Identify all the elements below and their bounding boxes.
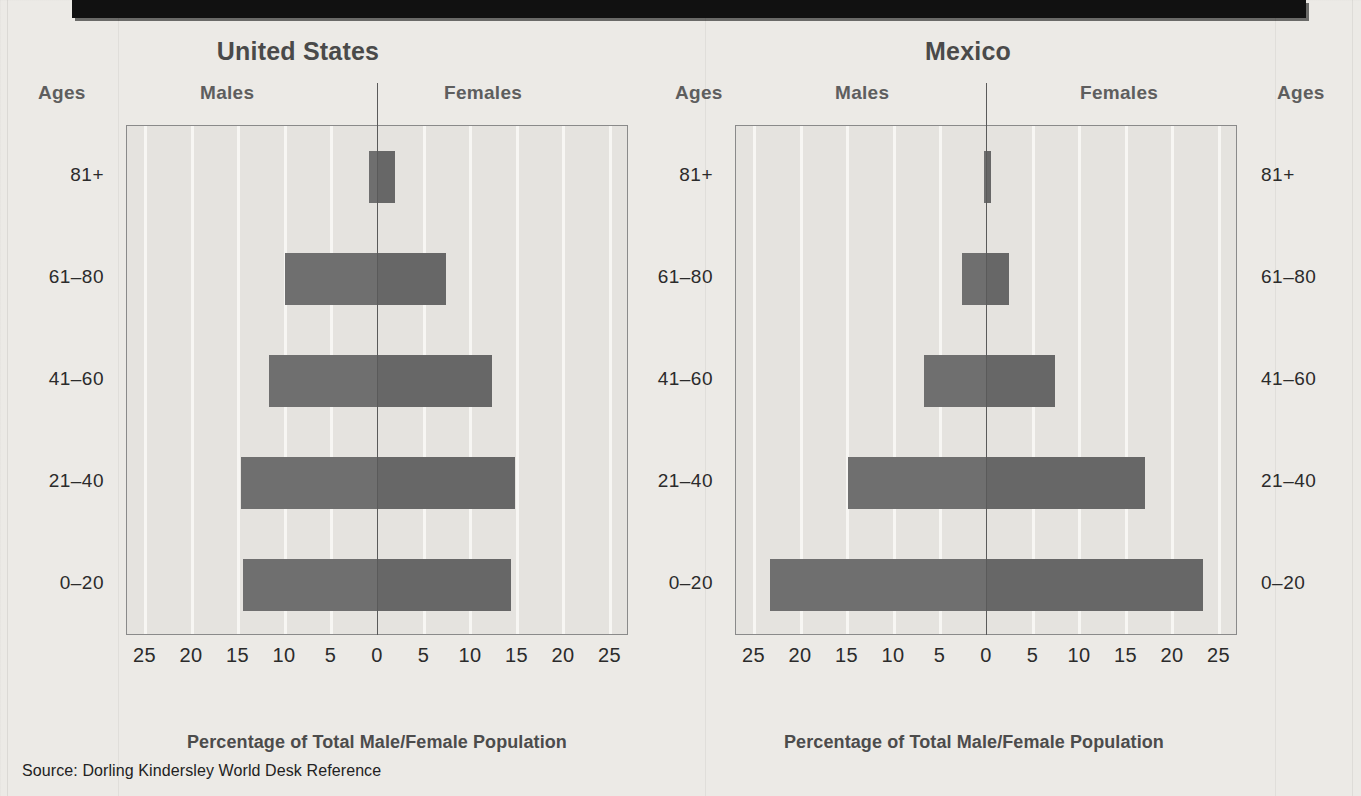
x-axis-tick-label: 20	[171, 644, 211, 667]
column-header-ages-left: Ages	[675, 82, 723, 104]
age-group-label: 41–60	[0, 368, 104, 390]
age-group-label: 41–60	[605, 368, 713, 390]
x-axis-tick-label: 5	[403, 644, 443, 667]
x-axis-tick-label: 5	[311, 644, 351, 667]
x-axis-tick-label: 10	[264, 644, 304, 667]
chart-title-mexico: Mexico	[615, 37, 1321, 66]
x-axis-tick-label: 15	[218, 644, 258, 667]
x-axis-tick-label: 25	[125, 644, 165, 667]
gridline	[191, 126, 194, 634]
bar-male	[241, 457, 378, 509]
x-axis-tick-label: 10	[1059, 644, 1099, 667]
x-axis-tick-label: 10	[873, 644, 913, 667]
x-axis-tick-label: 15	[827, 644, 867, 667]
bar-male	[848, 457, 987, 509]
column-header-females: Females	[444, 82, 522, 104]
gridline	[846, 126, 849, 634]
age-group-label: 61–80	[0, 266, 104, 288]
bar-male	[285, 253, 378, 305]
axis-caption-mexico: Percentage of Total Male/Female Populati…	[723, 732, 1225, 753]
age-group-label: 21–40	[1261, 470, 1361, 492]
x-axis-tick-label: 15	[496, 644, 536, 667]
column-header-ages-left: Ages	[38, 82, 86, 104]
age-group-label: 21–40	[605, 470, 713, 492]
center-axis-line	[986, 83, 987, 635]
age-group-label: 0–20	[0, 572, 104, 594]
bar-female	[987, 559, 1203, 611]
gridline	[1218, 126, 1221, 634]
bar-female	[987, 151, 991, 203]
x-axis-tick-label: 20	[1152, 644, 1192, 667]
bar-male	[924, 355, 987, 407]
x-axis-tick-label: 25	[734, 644, 774, 667]
age-group-label: 61–80	[605, 266, 713, 288]
bar-female	[378, 559, 511, 611]
age-group-label: 81+	[605, 164, 713, 186]
bar-female	[378, 457, 515, 509]
axis-caption-united-states: Percentage of Total Male/Female Populati…	[126, 732, 628, 753]
gridline	[753, 126, 756, 634]
column-header-males: Males	[835, 82, 889, 104]
bar-female	[378, 355, 492, 407]
x-axis-tick-label: 25	[589, 644, 629, 667]
gridline	[562, 126, 565, 634]
x-axis-tick-label: 5	[920, 644, 960, 667]
x-axis-tick-label: 10	[450, 644, 490, 667]
x-axis-tick-label: 20	[543, 644, 583, 667]
bar-male	[269, 355, 378, 407]
gridline	[516, 126, 519, 634]
chart-title-united-states: United States	[0, 37, 648, 66]
column-header-ages-right: Ages	[1277, 82, 1325, 104]
column-header-males: Males	[200, 82, 254, 104]
column-header-females: Females	[1080, 82, 1158, 104]
gridline	[1078, 126, 1081, 634]
gridline	[144, 126, 147, 634]
x-axis-tick-label: 0	[966, 644, 1006, 667]
x-axis-tick-label: 25	[1198, 644, 1238, 667]
age-group-label: 81+	[0, 164, 104, 186]
gridline	[1171, 126, 1174, 634]
chart-panel-united-states: United States Ages Males Females Percent…	[0, 22, 700, 722]
center-axis-line	[377, 83, 378, 635]
gridline	[1125, 126, 1128, 634]
header-band	[72, 0, 1306, 18]
age-group-label: 21–40	[0, 470, 104, 492]
chart-panel-mexico: Mexico Ages Males Females Ages Percentag…	[655, 22, 1361, 722]
bar-female	[987, 355, 1055, 407]
age-group-label: 41–60	[1261, 368, 1361, 390]
bar-female	[987, 457, 1145, 509]
x-axis-tick-label: 5	[1012, 644, 1052, 667]
gridline	[893, 126, 896, 634]
age-group-label: 61–80	[1261, 266, 1361, 288]
bar-male	[962, 253, 987, 305]
bar-female	[378, 151, 395, 203]
x-axis-tick-label: 20	[780, 644, 820, 667]
age-group-label: 0–20	[605, 572, 713, 594]
x-axis-tick-label: 15	[1105, 644, 1145, 667]
bar-female	[987, 253, 1009, 305]
gridline	[800, 126, 803, 634]
gridline	[237, 126, 240, 634]
age-group-label: 81+	[1261, 164, 1361, 186]
x-axis-tick-label: 0	[357, 644, 397, 667]
age-group-label: 0–20	[1261, 572, 1361, 594]
source-note: Source: Dorling Kindersley World Desk Re…	[22, 762, 381, 780]
bar-male	[770, 559, 987, 611]
bar-male	[243, 559, 378, 611]
bar-female	[378, 253, 446, 305]
